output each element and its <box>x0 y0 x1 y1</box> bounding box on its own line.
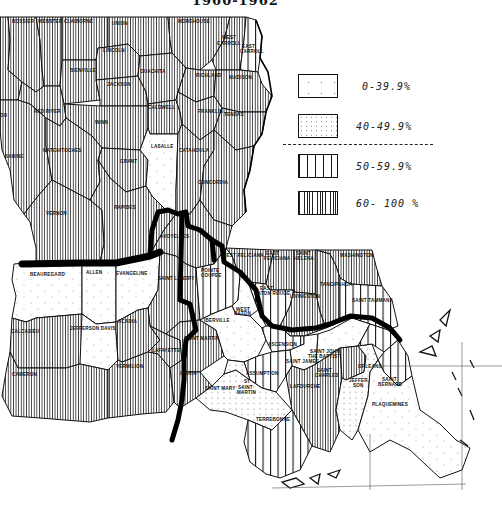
label-terrebonne: TERREBONNE <box>256 417 290 422</box>
label-allen: ALLEN <box>86 270 103 275</box>
label-ascension: ASCENSION <box>268 342 298 347</box>
label-lafourche: LAFOURCHE <box>290 384 321 389</box>
label-vernon: VERNON <box>46 211 67 216</box>
label-acadia: ACADIA <box>118 319 138 324</box>
label-st-martin: SAINT MARTIN <box>184 336 220 341</box>
legend-swatch-sparse-dots <box>298 74 338 98</box>
label-ebr-2: BATON ROUGE <box>254 291 290 296</box>
label-st-james: SAINT JAMES <box>286 359 319 364</box>
label-beauregard: BEAUREGARD <box>30 272 65 277</box>
label-orleans: ORLEANS <box>358 364 382 369</box>
label-catahoula: CATAHOULA <box>179 148 210 153</box>
label-west-feliciana: WEST FELICIANA <box>222 253 264 258</box>
legend-swatch-dense-vertical-lines <box>298 191 338 215</box>
map-legend: 0-39.9% 40-49.9% 50-59.9% 60- 100 % <box>298 74 502 224</box>
label-jackson: JACKSON <box>107 82 131 87</box>
label-concordia: CONCORDIA <box>198 180 229 185</box>
label-webster: WEBSTER <box>38 19 63 24</box>
label-claiborne: CLAIBORNE <box>64 19 93 24</box>
label-ouachita: OUACHITA <box>140 69 166 74</box>
legend-swatch-wide-vertical-lines <box>298 154 338 178</box>
label-tensas: TENSAS <box>224 112 244 117</box>
label-east-carroll-2: CARROLL <box>240 49 264 54</box>
legend-label: 0-39.9% <box>362 81 411 92</box>
label-iberville: IBERVILLE <box>204 318 230 323</box>
label-sabine: SABINE <box>5 154 24 159</box>
legend-label: 60- 100 % <box>356 198 419 209</box>
label-plaquemines: PLAQUEMINES <box>372 402 408 407</box>
label-caddo: DO <box>0 113 8 118</box>
label-st-mary: SAINT MARY <box>205 386 235 391</box>
label-tangipahoa: TANGIPAHOA <box>320 282 353 287</box>
label-lafayette: LAFAYETTE <box>152 348 180 353</box>
label-caldwell: CALDWELL <box>148 105 175 110</box>
label-st-john-2: THE BAPTIST <box>308 354 340 359</box>
label-calcasieu: CALCASIEU <box>11 329 40 334</box>
label-cameron: CAMERON <box>12 372 38 377</box>
parish-plaquemines <box>358 360 470 478</box>
label-lasalle: LASALLE <box>151 144 174 149</box>
legend-item-40-49: 40-49.9% <box>298 114 412 138</box>
label-vermilion: VERMILION <box>116 364 144 369</box>
map-figure: 1960-1962 <box>0 0 502 508</box>
label-natchitoches: NATCHITOCHES <box>43 148 81 153</box>
label-west-carroll-2: CARROLL <box>217 41 241 46</box>
legend-item-50-59: 50-59.9% <box>298 154 412 178</box>
label-west-carroll-1: WEST <box>222 35 236 40</box>
label-lincoln: LINCOLN <box>103 48 125 53</box>
label-st-landry: SAINT LANDRY <box>158 276 194 281</box>
legend-item-60-100: 60- 100 % <box>298 191 419 215</box>
label-winn: WINN <box>95 120 109 125</box>
label-assumption: ASSUMPTION <box>246 371 279 376</box>
legend-label: 40-49.9% <box>356 121 412 132</box>
label-richland: RICHLAND <box>196 73 222 78</box>
label-st-martin-lower-1: ST <box>244 379 250 384</box>
legend-dashed-divider <box>283 144 433 145</box>
label-rapides: RAPIDES <box>114 205 136 210</box>
label-st-tammany: SAINT TAMMANY <box>352 298 393 303</box>
label-avoyelles: AVOYELLES <box>160 234 189 239</box>
label-livingston: LIVINGSTON <box>290 294 320 299</box>
label-wbr-2: BATON <box>234 311 251 316</box>
label-evangeline: EVANGELINE <box>116 271 148 276</box>
label-grant: GRANT <box>120 159 137 164</box>
label-franklin: FRANKLIN <box>198 109 224 114</box>
label-morehouse: MOREHOUSE <box>178 19 210 24</box>
label-st-charles-2: CHARLES <box>315 373 339 378</box>
label-east-feliciana-2: FELICIANA <box>264 256 291 261</box>
parish-beauregard <box>12 262 82 322</box>
label-pointe-coupee-2: COUPEE <box>201 273 222 278</box>
label-iberia: IBERIA <box>180 371 197 376</box>
label-bossier: BOSSIER <box>12 19 35 24</box>
label-red-river: RED RIVER <box>34 109 61 114</box>
legend-item-0-39: 0-39.9% <box>298 74 411 98</box>
legend-label: 50-59.9% <box>356 161 412 172</box>
label-st-bernard-2: BERNARD <box>378 382 403 387</box>
label-jeff-davis: JEFFERSON DAVIS <box>70 326 116 331</box>
label-bienville: BIENVILLE <box>70 68 96 73</box>
label-jefferson-2: SON <box>353 383 364 388</box>
label-st-helena-2: HELENA <box>294 256 315 261</box>
label-union: UNION <box>112 21 128 26</box>
legend-swatch-dense-dots <box>298 114 338 138</box>
label-washington: WASHINGTON <box>340 253 374 258</box>
parish-bienville <box>60 60 100 104</box>
label-madison: MADISON <box>229 75 253 80</box>
label-st-martin-lower-3: MARTIN <box>237 390 257 395</box>
parish-vermilion <box>108 352 174 418</box>
